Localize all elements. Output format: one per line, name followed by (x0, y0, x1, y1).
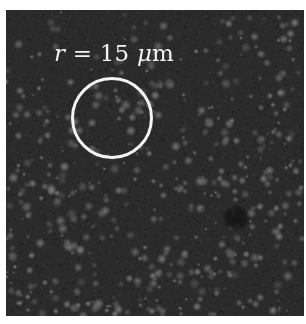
radius-circle (71, 77, 153, 159)
microscopy-image: r = 15 μm (6, 10, 304, 316)
radius-value: = 15 (65, 40, 137, 66)
radius-label: r = 15 μm (54, 40, 174, 66)
radius-variable: r (54, 40, 65, 66)
micro-symbol: μ (137, 40, 152, 66)
radius-unit: m (152, 40, 174, 66)
